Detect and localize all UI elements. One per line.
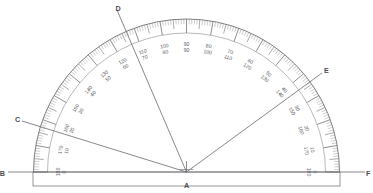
scale-number-inner: 170 [303, 146, 310, 156]
minor-tick [333, 151, 338, 152]
minor-tick [80, 62, 84, 66]
minor-tick [220, 23, 221, 28]
minor-tick [53, 98, 58, 101]
major-tick [110, 39, 117, 51]
minor-tick [41, 125, 46, 127]
minor-tick [84, 58, 87, 62]
mid-tick [34, 159, 43, 160]
minor-tick [333, 156, 338, 157]
mid-tick [78, 64, 85, 71]
scale-number-inner: 70 [141, 53, 149, 61]
minor-tick [301, 76, 305, 79]
major-tick [256, 39, 263, 51]
minor-tick [256, 37, 258, 42]
minor-tick [73, 70, 77, 73]
minor-tick [305, 80, 309, 83]
minor-tick [313, 93, 317, 96]
major-tick [234, 28, 239, 41]
minor-tick [331, 140, 336, 141]
minor-tick [323, 112, 328, 114]
minor-tick [66, 78, 70, 81]
minor-tick [38, 135, 43, 136]
minor-tick [63, 82, 67, 85]
minor-tick [265, 42, 268, 46]
minor-tick [46, 112, 51, 114]
scale-number-inner: 10 [63, 147, 70, 154]
point-label-E: E [324, 66, 329, 75]
mid-tick [61, 84, 69, 89]
minor-tick [310, 89, 314, 92]
ray-AD [117, 10, 187, 172]
major-tick [211, 21, 213, 35]
minor-tick [103, 44, 106, 48]
major-tick [323, 145, 337, 147]
minor-tick [258, 38, 261, 43]
minor-tick [37, 140, 42, 141]
minor-tick [86, 57, 89, 61]
scale-number-inner: 90 [184, 47, 190, 53]
minor-tick [76, 66, 80, 70]
minor-tick [316, 98, 321, 101]
mid-tick [325, 132, 334, 134]
scale-number-inner: 110 [223, 53, 233, 61]
minor-tick [139, 26, 141, 31]
minor-tick [117, 36, 119, 41]
minor-tick [215, 22, 216, 27]
minor-tick [132, 29, 134, 34]
minor-tick [247, 32, 249, 37]
minor-tick [97, 48, 100, 52]
minor-tick [277, 51, 280, 55]
minor-tick [82, 60, 86, 64]
minor-tick [235, 27, 237, 32]
ray-AC [22, 121, 187, 172]
major-tick [134, 28, 139, 41]
point-labels: ABFCDE [0, 4, 371, 190]
minor-tick [280, 53, 283, 57]
minor-tick [202, 20, 203, 25]
minor-tick [35, 151, 40, 152]
point-label-B: B [0, 169, 5, 178]
minor-tick [285, 58, 288, 62]
minor-tick [332, 148, 337, 149]
major-tick [160, 21, 162, 35]
minor-tick [322, 110, 327, 112]
minor-tick [157, 22, 158, 27]
minor-tick [263, 41, 266, 45]
minor-tick [317, 100, 322, 102]
point-label-D: D [115, 4, 120, 13]
minor-tick [55, 93, 59, 96]
major-tick [36, 145, 50, 147]
minor-tick [303, 78, 307, 81]
minor-tick [324, 115, 329, 117]
minor-tick [324, 117, 329, 119]
minor-tick [251, 34, 253, 39]
minor-tick [329, 130, 334, 131]
major-tick [317, 120, 330, 125]
scale-number-inner: 30 [77, 107, 85, 115]
minor-tick [326, 122, 331, 124]
minor-tick [328, 127, 333, 129]
minor-tick [36, 143, 41, 144]
mid-tick [99, 47, 104, 55]
minor-tick [58, 89, 62, 92]
major-tick [307, 96, 319, 103]
protractor-canvas: 0180101702016030150401405013060120701108… [0, 0, 373, 193]
minor-tick [207, 20, 208, 25]
minor-tick [217, 22, 218, 27]
minor-tick [35, 148, 40, 149]
minor-tick [227, 25, 228, 30]
minor-tick [155, 22, 156, 27]
minor-tick [35, 153, 40, 154]
minor-tick [295, 68, 299, 72]
minor-tick [105, 42, 108, 46]
minor-tick [37, 138, 42, 139]
minor-tick [64, 80, 68, 83]
minor-tick [332, 143, 337, 144]
scale-numbers: 0180101702016030150401405013060120701108… [55, 41, 317, 177]
minor-tick [318, 103, 323, 105]
minor-tick [44, 117, 49, 119]
minor-tick [108, 41, 111, 45]
minor-tick [319, 105, 324, 107]
ray-AE [187, 73, 323, 172]
minor-tick [168, 20, 169, 25]
